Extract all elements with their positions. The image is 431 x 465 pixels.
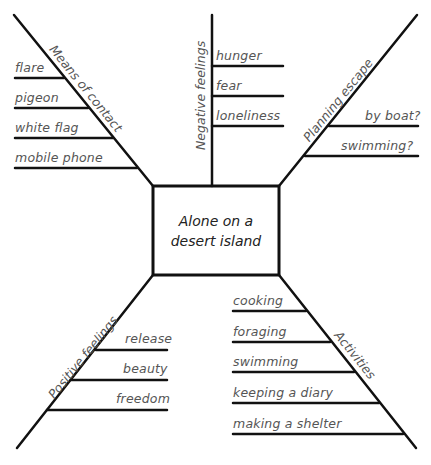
branch-label-negative-feelings: Negative feelings xyxy=(193,41,208,150)
item-pigeon: pigeon xyxy=(15,90,59,105)
item-white-flag: white flag xyxy=(15,120,79,135)
item-cooking: cooking xyxy=(233,293,283,308)
item-freedom: freedom xyxy=(116,391,170,406)
item-loneliness: loneliness xyxy=(216,108,280,123)
item-flare: flare xyxy=(15,60,44,75)
item-keeping-a-diary: keeping a diary xyxy=(233,385,333,400)
item-beauty: beauty xyxy=(123,361,168,376)
central-topic-line1: Alone on a xyxy=(171,211,262,231)
item-foraging: foraging xyxy=(233,324,287,339)
item-mobile-phone: mobile phone xyxy=(15,150,103,165)
item-fear: fear xyxy=(216,78,242,93)
item-hunger: hunger xyxy=(216,48,262,63)
central-topic-line2: desert island xyxy=(171,231,262,251)
central-topic: Alone on a desert island xyxy=(153,186,279,275)
item-swimming-escape: swimming? xyxy=(341,138,413,153)
item-by-boat: by boat? xyxy=(365,108,421,123)
item-release: release xyxy=(125,331,172,346)
item-making-a-shelter: making a shelter xyxy=(233,416,342,431)
item-swimming-activity: swimming xyxy=(233,354,299,369)
